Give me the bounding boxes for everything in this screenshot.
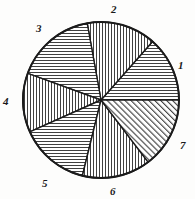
sector-label-7: 7 (180, 140, 186, 151)
sector-label-5: 5 (42, 178, 48, 189)
sector-label-6: 6 (110, 186, 116, 197)
hatched-pie-figure: 1 2 3 4 5 6 7 (0, 0, 195, 199)
sector-label-1: 1 (178, 60, 184, 71)
pie-chart-svg (0, 0, 195, 199)
sector-label-3: 3 (36, 23, 42, 34)
sector-label-4: 4 (3, 96, 9, 107)
sector-label-2: 2 (111, 4, 117, 15)
